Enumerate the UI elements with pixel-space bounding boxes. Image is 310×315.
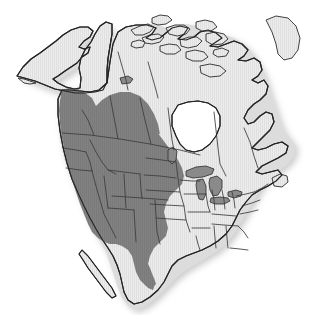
- north-america-map[interactable]: North America species range map: [0, 0, 310, 315]
- range-map-figure: North America species range map: [0, 0, 310, 315]
